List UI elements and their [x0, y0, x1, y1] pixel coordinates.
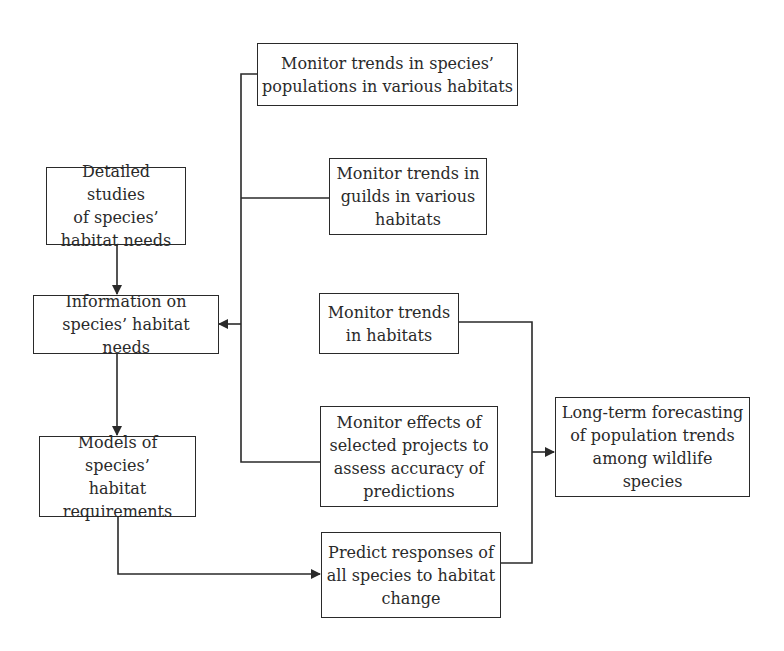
- node-monitor-species-populations: Monitor trends in species’populations in…: [257, 43, 518, 106]
- node-models-habitat-requirements: Models of species’habitatrequirements: [39, 436, 196, 517]
- node-text-line: Predict responses of: [327, 541, 495, 564]
- node-text-line: of species’: [51, 206, 181, 229]
- node-text-line: Long-term forecasting: [562, 401, 744, 424]
- node-text-line: assess accuracy of: [329, 457, 488, 480]
- node-predict-responses: Predict responses ofall species to habit…: [321, 532, 501, 618]
- node-text-line: species: [562, 470, 744, 493]
- node-text-line: Monitor trends: [328, 301, 451, 324]
- node-text-line: species’ habitat needs: [38, 313, 214, 359]
- node-text-line: habitat: [44, 477, 191, 500]
- node-detailed-studies: Detailed studiesof species’habitat needs: [46, 167, 186, 245]
- node-text-line: of population trends: [562, 424, 744, 447]
- node-text-line: predictions: [329, 480, 488, 503]
- node-text-line: populations in various habitats: [262, 75, 513, 98]
- node-text-line: among wildlife: [562, 447, 744, 470]
- node-text-line: Models of species’: [44, 431, 191, 477]
- node-monitor-guilds: Monitor trends inguilds in varioushabita…: [329, 158, 487, 235]
- node-text-line: habitats: [336, 208, 479, 231]
- node-monitor-habitats: Monitor trendsin habitats: [319, 293, 459, 354]
- node-text-line: habitat needs: [51, 229, 181, 252]
- node-text-line: selected projects to: [329, 434, 488, 457]
- node-text-line: Information on: [38, 290, 214, 313]
- node-text-line: change: [327, 587, 495, 610]
- node-monitor-effects: Monitor effects ofselected projects toas…: [320, 406, 498, 507]
- node-text-line: Detailed studies: [51, 160, 181, 206]
- node-text-line: Monitor trends in: [336, 162, 479, 185]
- node-text-line: Monitor effects of: [329, 411, 488, 434]
- node-text-line: guilds in various: [336, 185, 479, 208]
- edge-models-to-predict: [118, 516, 320, 574]
- node-long-term-forecasting: Long-term forecastingof population trend…: [555, 397, 750, 497]
- node-text-line: in habitats: [328, 324, 451, 347]
- node-information-habitat-needs: Information onspecies’ habitat needs: [33, 295, 219, 354]
- edge-species-populations-to-trunk: [241, 74, 320, 462]
- node-text-line: requirements: [44, 500, 191, 523]
- node-text-line: Monitor trends in species’: [262, 52, 513, 75]
- node-text-line: all species to habitat: [327, 564, 495, 587]
